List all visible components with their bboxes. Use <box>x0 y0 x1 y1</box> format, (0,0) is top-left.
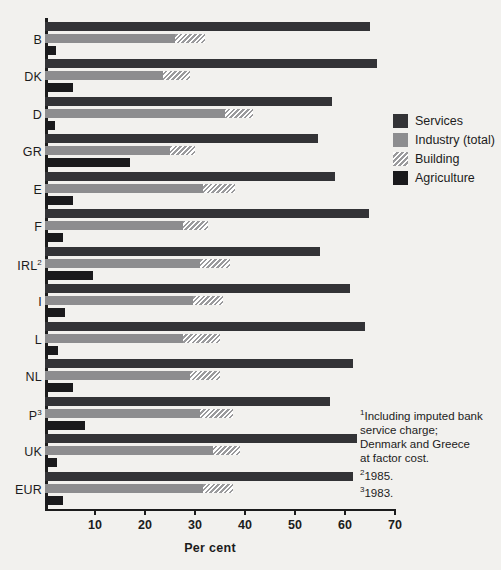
bar-services <box>45 209 369 218</box>
bar-agriculture <box>45 233 63 242</box>
bar-building <box>203 484 233 493</box>
bar-services <box>45 434 357 443</box>
bar-group-p <box>45 397 395 430</box>
bar-group-irl <box>45 247 395 280</box>
x-tick-10 <box>94 509 96 515</box>
plot-area <box>45 18 395 505</box>
footnote-marker: 2 <box>360 468 364 477</box>
y-axis-label-nl: NL <box>26 370 42 384</box>
y-axis-label-b: B <box>33 33 42 47</box>
bar-building <box>183 334 221 343</box>
legend-swatch-industry <box>393 133 408 147</box>
bar-building <box>203 184 236 193</box>
x-tick-20 <box>144 509 146 515</box>
bar-building <box>183 221 208 230</box>
x-tick-label-70: 70 <box>388 518 402 532</box>
footnotes-block: 1Including imputed bankservice charge;De… <box>360 406 500 500</box>
legend-item-industry: Industry (total) <box>393 132 499 148</box>
y-axis-label-l: L <box>35 333 42 347</box>
bar-agriculture <box>45 308 65 317</box>
bar-agriculture <box>45 383 73 392</box>
bar-agriculture <box>45 496 63 505</box>
bar-group-nl <box>45 359 395 392</box>
bar-services <box>45 247 320 256</box>
y-axis-label-d: D <box>33 108 42 122</box>
bar-group-eur <box>45 472 395 505</box>
footnote-line-6: 31983. <box>360 483 500 500</box>
bar-group-b <box>45 22 395 55</box>
legend-label-services: Services <box>415 114 463 128</box>
bar-services <box>45 322 365 331</box>
legend-item-building: Building <box>393 151 499 167</box>
bar-services <box>45 359 353 368</box>
x-tick-label-20: 20 <box>138 518 152 532</box>
bar-building <box>200 259 230 268</box>
x-axis-line <box>45 509 395 511</box>
bar-building <box>175 34 205 43</box>
legend-label-building: Building <box>415 152 459 166</box>
legend-label-industry: Industry (total) <box>415 133 495 147</box>
legend-label-agriculture: Agriculture <box>415 171 475 185</box>
bar-group-dk <box>45 59 395 92</box>
bar-agriculture <box>45 158 130 167</box>
x-tick-30 <box>194 509 196 515</box>
bar-group-gr <box>45 134 395 167</box>
bar-agriculture <box>45 421 85 430</box>
bar-building <box>163 71 191 80</box>
bar-agriculture <box>45 46 56 55</box>
footnote-marker: 3 <box>360 485 364 494</box>
bar-industry-total <box>45 446 240 455</box>
legend-item-services: Services <box>393 113 499 129</box>
footnote-marker: 1 <box>360 408 364 417</box>
bar-industry-total <box>45 109 253 118</box>
y-axis-label-i: I <box>38 295 42 309</box>
bar-agriculture <box>45 196 73 205</box>
bar-group-d <box>45 97 395 130</box>
y-axis-label-eur: EUR <box>15 483 42 497</box>
x-tick-label-10: 10 <box>88 518 102 532</box>
x-tick-label-30: 30 <box>188 518 202 532</box>
x-tick-label-40: 40 <box>238 518 252 532</box>
y-axis-label-uk: UK <box>24 445 42 459</box>
bar-group-l <box>45 322 395 355</box>
bar-agriculture <box>45 346 58 355</box>
footnote-mark: 3 <box>37 408 42 417</box>
bar-building <box>200 409 233 418</box>
legend-swatch-agriculture <box>393 171 408 185</box>
x-tick-70 <box>394 509 396 515</box>
bar-services <box>45 284 350 293</box>
footnote-line-5: 21985. <box>360 466 500 483</box>
x-tick-40 <box>244 509 246 515</box>
bar-services <box>45 134 318 143</box>
bar-services <box>45 472 353 481</box>
bar-group-f <box>45 209 395 242</box>
bar-group-i <box>45 284 395 317</box>
footnote-mark: 2 <box>37 258 42 267</box>
bar-group-uk <box>45 434 395 467</box>
footnote-line-4: at factor cost. <box>360 451 500 465</box>
bar-agriculture <box>45 121 55 130</box>
bar-agriculture <box>45 458 57 467</box>
bar-services <box>45 22 370 31</box>
bar-services <box>45 397 330 406</box>
bar-building <box>190 371 220 380</box>
bar-agriculture <box>45 271 93 280</box>
y-axis-label-f: F <box>34 220 42 234</box>
bar-building <box>193 296 223 305</box>
legend-item-agriculture: Agriculture <box>393 170 499 186</box>
x-axis-title: Per cent <box>0 541 420 555</box>
bar-services <box>45 172 335 181</box>
x-tick-label-60: 60 <box>338 518 352 532</box>
footnote-line-3: Denmark and Greece <box>360 437 500 451</box>
y-axis-label-dk: DK <box>24 70 42 84</box>
y-axis-label-e: E <box>33 183 42 197</box>
bar-services <box>45 59 377 68</box>
y-axis-label-gr: GR <box>23 145 42 159</box>
bar-building <box>213 446 241 455</box>
bar-building <box>225 109 253 118</box>
chart-figure: 10203040506070 Per cent ServicesIndustry… <box>0 0 501 570</box>
y-axis-label-p: P3 <box>29 408 42 423</box>
footnote-line-1: 1Including imputed bank <box>360 406 500 423</box>
chart-legend: ServicesIndustry (total)BuildingAgricult… <box>393 113 499 189</box>
y-axis-label-irl: IRL2 <box>17 258 42 273</box>
